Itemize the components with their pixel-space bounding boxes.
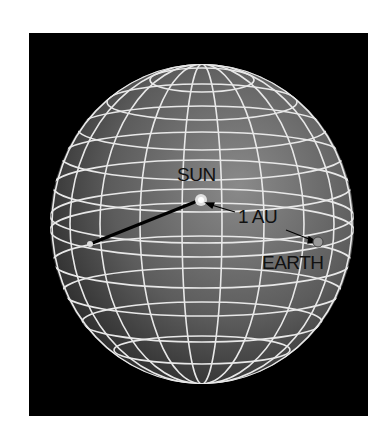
earth-icon [313,237,323,247]
distance-label: 1 AU [238,206,277,228]
sun-icon [195,194,207,206]
earth-label: EARTH [262,252,324,274]
sun-label: SUN [177,164,216,186]
celestial-sphere [0,0,390,438]
